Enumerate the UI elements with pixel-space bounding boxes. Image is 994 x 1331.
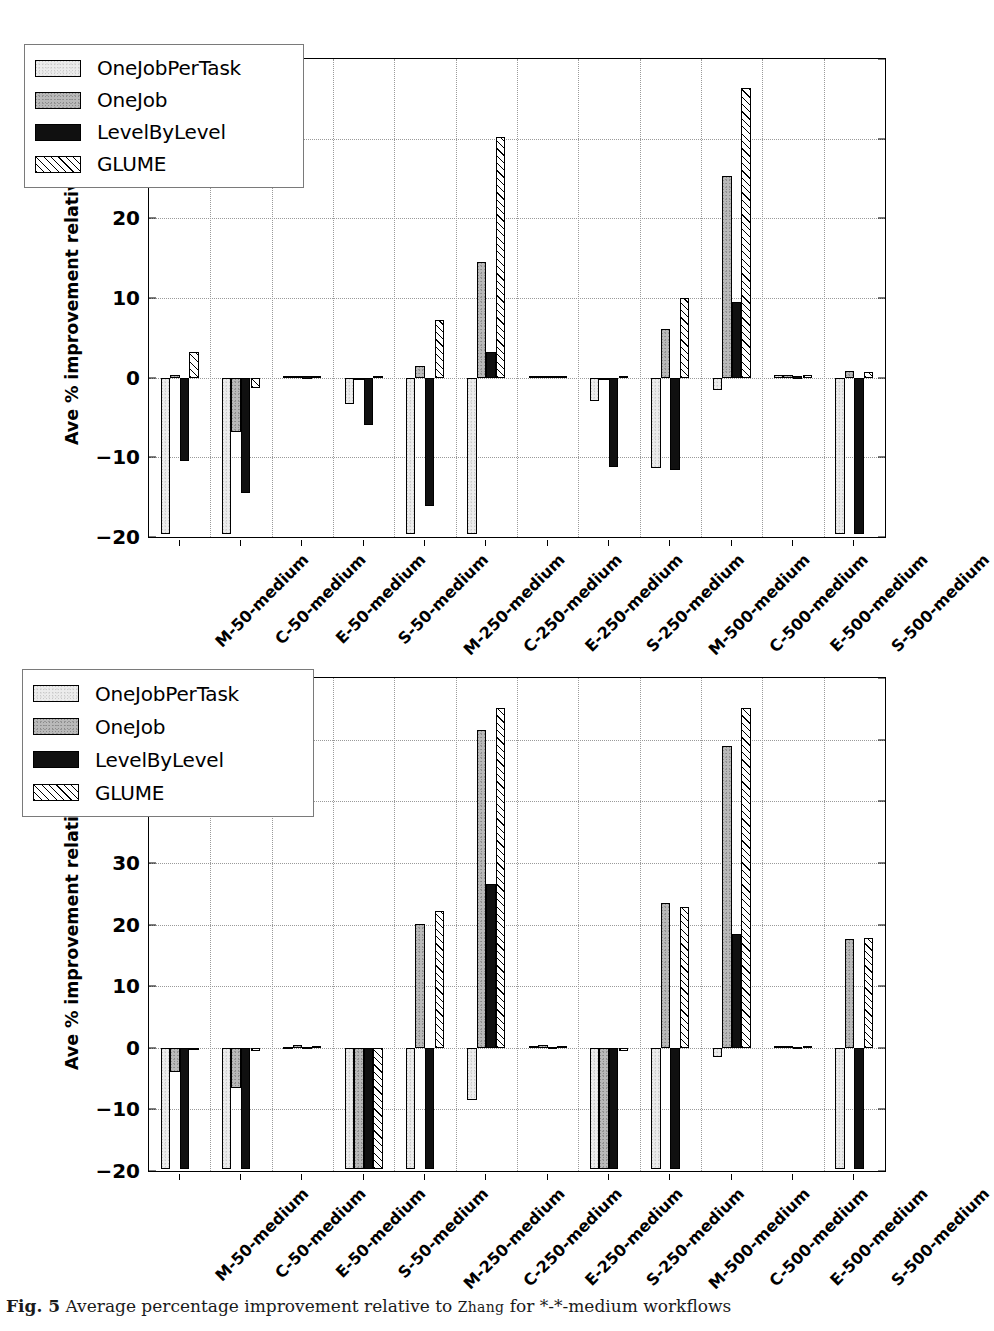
chart-panel-bottom: Ave % improvement relative to Zhang −20−… [0, 655, 917, 1280]
bar-onejob [477, 262, 487, 378]
x-tick-mark [547, 540, 548, 546]
y-tick-mark [878, 986, 885, 987]
bar-glume [864, 372, 874, 378]
gridline-vertical [394, 678, 395, 1171]
bar-levelbylevel [180, 1048, 190, 1169]
bar-glume [435, 911, 445, 1048]
bar-onejob [845, 939, 855, 1048]
gridline-vertical [701, 59, 702, 537]
bar-onejob [170, 375, 180, 377]
gridline-vertical [456, 678, 457, 1171]
x-tick-mark [179, 1174, 180, 1180]
bar-levelbylevel [241, 378, 251, 494]
legend-item-onejobpertask: OneJobPerTask [33, 677, 301, 710]
x-tick-mark [485, 1174, 486, 1180]
x-tick-mark [179, 540, 180, 546]
y-tick-label: 10 [112, 974, 149, 998]
y-axis-label-top: Ave % improvement relative to Zhang [62, 145, 82, 445]
bar-onejobpertask [406, 378, 416, 534]
legend-swatch-glume [33, 784, 79, 801]
bar-levelbylevel [670, 378, 680, 470]
legend-label-levelbylevel: LevelByLevel [95, 748, 224, 772]
bar-glume [557, 1046, 567, 1048]
gridline-vertical [517, 59, 518, 537]
x-tick-mark [547, 1174, 548, 1180]
bar-glume [435, 320, 445, 378]
legend-top: OneJobPerTask OneJob LevelByLevel GLUME [24, 44, 304, 188]
bar-onejobpertask [774, 1046, 784, 1048]
legend-swatch-onejob [33, 718, 79, 735]
y-tick-mark [878, 537, 885, 538]
bar-levelbylevel [364, 378, 374, 426]
bar-group [406, 678, 444, 1171]
bar-group [713, 59, 751, 537]
bar-group [774, 59, 812, 537]
bar-group [406, 59, 444, 537]
bar-levelbylevel [241, 1048, 251, 1169]
y-tick-mark [149, 1109, 156, 1110]
bar-group [590, 678, 628, 1171]
bar-glume [189, 352, 199, 377]
bar-onejob [231, 378, 241, 432]
bar-glume [373, 1048, 383, 1169]
y-tick-label: 0 [126, 1036, 149, 1060]
caption-label: Fig. 5 [6, 1296, 60, 1316]
bar-onejob [661, 903, 671, 1048]
bar-onejob [599, 1048, 609, 1169]
bar-onejobpertask [222, 378, 232, 534]
legend-label-levelbylevel: LevelByLevel [97, 120, 226, 144]
bar-onejob [538, 1045, 548, 1048]
bar-onejobpertask [651, 378, 661, 468]
bar-onejobpertask [835, 378, 845, 534]
bar-onejobpertask [283, 376, 293, 378]
bar-onejob [661, 329, 671, 378]
y-tick-mark [149, 377, 156, 378]
legend-item-onejobpertask: OneJobPerTask [35, 52, 291, 84]
x-tick-mark [363, 540, 364, 546]
bar-levelbylevel [793, 1047, 803, 1049]
bar-levelbylevel [854, 1048, 864, 1169]
x-tick-mark [853, 540, 854, 546]
y-tick-mark [878, 1047, 885, 1048]
bar-onejob [354, 378, 364, 380]
x-tick-label: C-500-medium [765, 1184, 871, 1290]
gridline-vertical [824, 59, 825, 537]
y-tick-mark [878, 801, 885, 802]
bar-levelbylevel [854, 378, 864, 534]
bar-levelbylevel [486, 884, 496, 1048]
bar-onejob [845, 371, 855, 378]
x-axis-ticks-top: M-50-mediumC-50-mediumE-50-mediumS-50-me… [148, 540, 886, 650]
gridline-vertical [333, 678, 334, 1171]
bar-onejobpertask [222, 1048, 232, 1169]
x-tick-mark [301, 1174, 302, 1180]
bar-glume [312, 376, 322, 378]
y-tick-mark [878, 138, 885, 139]
bar-onejobpertask [345, 378, 355, 404]
bar-glume [803, 375, 813, 377]
bar-levelbylevel [180, 378, 190, 462]
bar-glume [189, 1048, 199, 1050]
x-tick-mark [608, 540, 609, 546]
caption-text-2: for *-*-medium workflows [510, 1296, 732, 1316]
bar-levelbylevel [548, 1047, 558, 1049]
bar-group [345, 59, 383, 537]
legend-swatch-levelbylevel [33, 751, 79, 768]
bar-levelbylevel [670, 1048, 680, 1169]
bar-onejob [293, 376, 303, 378]
bar-group [345, 678, 383, 1171]
bar-glume [680, 298, 690, 378]
bar-onejob [170, 1048, 180, 1072]
y-tick-mark [878, 739, 885, 740]
bar-group [835, 59, 873, 537]
y-tick-mark [149, 924, 156, 925]
y-tick-mark [149, 986, 156, 987]
caption-smallcaps-zhang: Zhang [458, 1299, 505, 1315]
bar-group [835, 678, 873, 1171]
x-tick-mark [669, 540, 670, 546]
bar-glume [557, 376, 567, 378]
bar-onejob [722, 746, 732, 1048]
bar-glume [251, 1048, 261, 1051]
y-tick-mark [149, 862, 156, 863]
x-tick-mark [424, 540, 425, 546]
legend-label-onejobpertask: OneJobPerTask [97, 56, 241, 80]
